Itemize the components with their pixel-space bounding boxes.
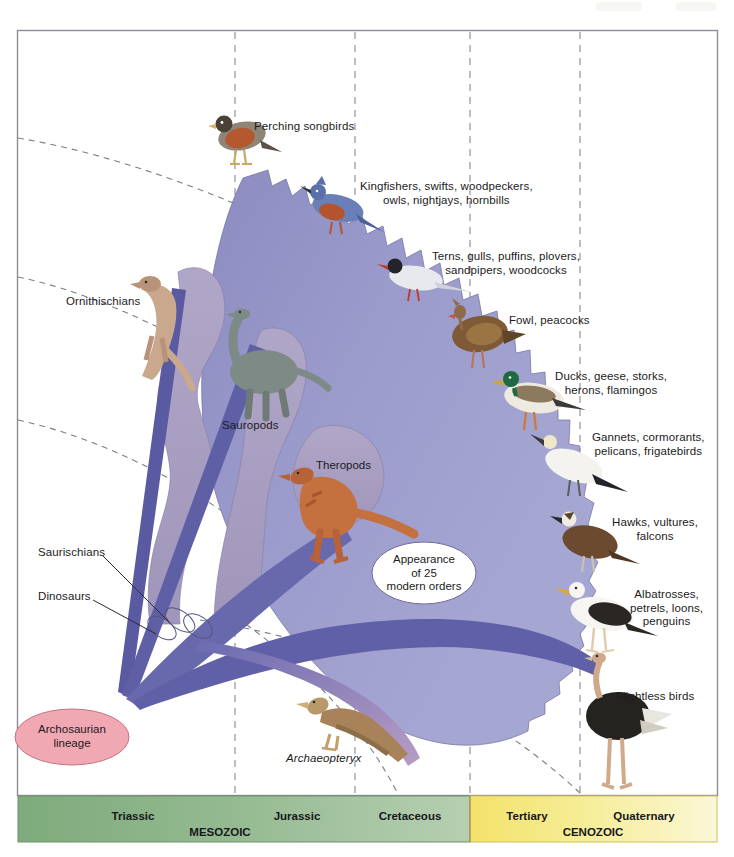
label-dinosaurs: Dinosaurs bbox=[38, 590, 91, 604]
era-mesozoic: MESOZOIC bbox=[165, 826, 275, 838]
label-hawks: Hawks, vultures, falcons bbox=[612, 516, 698, 543]
period-quaternary: Quaternary bbox=[588, 810, 700, 822]
evolution-diagram-figure: Perching songbirds Kingfishers, swifts, … bbox=[0, 0, 734, 857]
label-fowl: Fowl, peacocks bbox=[509, 314, 590, 328]
era-cenozoic: CENOZOIC bbox=[538, 826, 648, 838]
archosaurian-origin-label: Archosaurian lineage bbox=[16, 723, 128, 750]
label-perching-songbirds: Perching songbirds bbox=[254, 120, 354, 134]
label-sauropods: Sauropods bbox=[222, 419, 279, 433]
label-terns: Terns, gulls, puffins, plovers, sandpipe… bbox=[432, 250, 580, 277]
period-triassic: Triassic bbox=[78, 810, 188, 822]
period-tertiary: Tertiary bbox=[479, 810, 575, 822]
label-albatrosses: Albatrosses, petrels, loons, penguins bbox=[630, 588, 703, 629]
label-flightless-birds: Flightless birds bbox=[616, 690, 694, 704]
modern-orders-label: Appearance of 25 modern orders bbox=[372, 553, 476, 594]
label-ducks: Ducks, geese, storks, herons, flamingos bbox=[555, 370, 667, 397]
period-cretaceous: Cretaceous bbox=[357, 810, 463, 822]
label-ornithischians: Ornithischians bbox=[66, 295, 140, 309]
label-saurischians: Saurischians bbox=[38, 546, 105, 560]
period-jurassic: Jurassic bbox=[250, 810, 344, 822]
label-gannets: Gannets, cormorants, pelicans, frigatebi… bbox=[592, 431, 705, 458]
label-archaeopteryx: Archaeopteryx bbox=[286, 752, 361, 766]
label-theropods: Theropods bbox=[316, 459, 371, 471]
label-kingfishers: Kingfishers, swifts, woodpeckers, owls, … bbox=[360, 180, 533, 207]
